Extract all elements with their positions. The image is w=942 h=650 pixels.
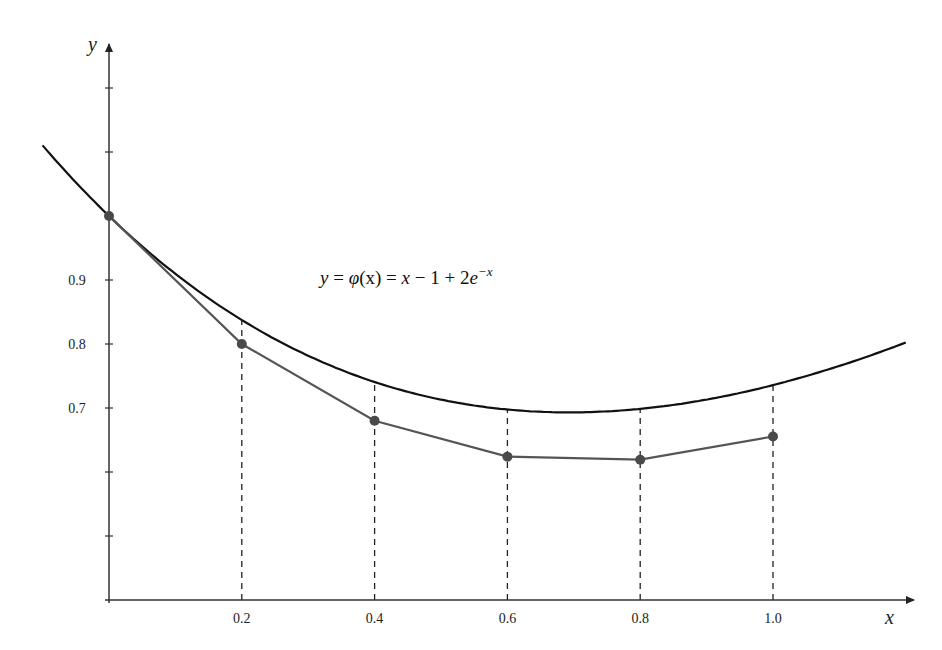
data-point-marker — [104, 211, 114, 221]
x-axis-label: x — [884, 606, 894, 628]
euler-approximation-line — [109, 216, 773, 460]
data-point-marker — [768, 432, 778, 442]
x-tick-label: 0.8 — [631, 611, 649, 626]
curve-formula-label: y = φ(x) = x − 1 + 2e−x — [318, 264, 493, 289]
chart: 0.90.80.7 0.20.40.60.81.0 y x y = φ(x) =… — [0, 0, 942, 650]
x-tick-label: 0.2 — [233, 611, 251, 626]
x-axis-ticks: 0.20.40.60.81.0 — [233, 611, 782, 626]
x-tick-label: 0.4 — [366, 611, 384, 626]
x-tick-label: 1.0 — [764, 611, 782, 626]
x-tick-label: 0.6 — [499, 611, 517, 626]
y-axis-label: y — [86, 33, 97, 56]
data-point-marker — [237, 339, 247, 349]
data-point-marker — [370, 416, 380, 426]
y-tick-label: 0.9 — [68, 273, 86, 288]
data-point-marker — [502, 452, 512, 462]
data-point-marker — [635, 455, 645, 465]
y-tick-label: 0.7 — [68, 401, 86, 416]
euler-approximation-points — [104, 211, 778, 465]
y-tick-label: 0.8 — [68, 337, 86, 352]
y-axis-ticks: 0.90.80.7 — [68, 88, 113, 536]
